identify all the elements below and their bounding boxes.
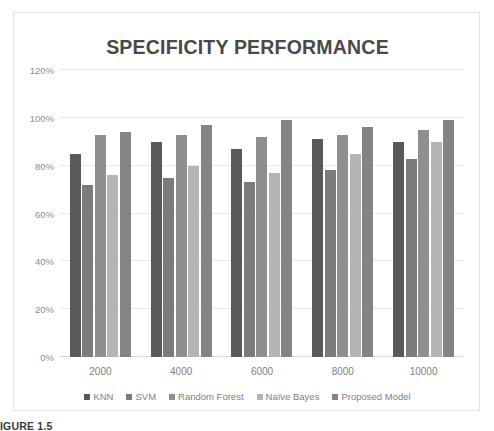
x-axis-tick-label: 2000 [89, 366, 111, 377]
bar[interactable] [120, 132, 131, 357]
bar[interactable] [256, 137, 267, 357]
bar[interactable] [350, 154, 361, 357]
bar-group [383, 70, 464, 357]
bar-group [60, 70, 141, 357]
bar[interactable] [443, 120, 454, 357]
bar[interactable] [406, 159, 417, 358]
legend-item[interactable]: Naïve Bayes [257, 391, 320, 402]
bar[interactable] [231, 149, 242, 357]
bar-group [302, 70, 383, 357]
y-axis-tick-label: 20% [35, 304, 54, 315]
legend-swatch-icon [257, 394, 263, 400]
legend-swatch-icon [169, 394, 175, 400]
legend-item[interactable]: SVM [126, 391, 156, 402]
y-axis-tick-label: 60% [35, 208, 54, 219]
bar[interactable] [362, 127, 373, 357]
x-axis-tick-label: 4000 [170, 366, 192, 377]
x-axis-tick-label: 10000 [410, 366, 438, 377]
bars-layer [60, 70, 464, 357]
bar[interactable] [312, 139, 323, 357]
bar-group [141, 70, 222, 357]
bar[interactable] [107, 175, 118, 357]
bar[interactable] [269, 173, 280, 357]
bar[interactable] [201, 125, 212, 357]
legend-swatch-icon [126, 394, 132, 400]
legend-item-label: Proposed Model [341, 391, 410, 402]
bar[interactable] [244, 182, 255, 357]
y-axis-tick-label: 0% [40, 352, 54, 363]
y-axis-tick-label: 80% [35, 160, 54, 171]
chart-frame: SPECIFICITY PERFORMANCE 0%20%40%60%80%10… [13, 12, 480, 411]
chart-legend: KNNSVMRandom ForestNaïve BayesProposed M… [14, 391, 481, 402]
x-axis-tick-label: 8000 [332, 366, 354, 377]
bar-group [222, 70, 303, 357]
legend-item-label: SVM [135, 391, 156, 402]
bar[interactable] [431, 142, 442, 357]
x-axis-tick-label: 6000 [251, 366, 273, 377]
chart-title: SPECIFICITY PERFORMANCE [14, 36, 481, 59]
bar[interactable] [151, 142, 162, 357]
bar[interactable] [337, 135, 348, 357]
legend-swatch-icon [84, 394, 90, 400]
y-axis-tick-label: 40% [35, 256, 54, 267]
legend-item[interactable]: Random Forest [169, 391, 243, 402]
bar[interactable] [176, 135, 187, 357]
y-axis-tick-label: 120% [30, 65, 54, 76]
figure-container: SPECIFICITY PERFORMANCE 0%20%40%60%80%10… [0, 0, 494, 431]
bar[interactable] [418, 130, 429, 357]
bar[interactable] [188, 166, 199, 357]
bar[interactable] [163, 178, 174, 357]
legend-item-label: KNN [93, 391, 113, 402]
legend-swatch-icon [332, 394, 338, 400]
bar[interactable] [82, 185, 93, 357]
legend-item[interactable]: Proposed Model [332, 391, 410, 402]
bar[interactable] [393, 142, 404, 357]
plot-area: 0%20%40%60%80%100%120% 20004000600080001… [60, 70, 464, 357]
legend-item-label: Random Forest [178, 391, 243, 402]
figure-caption: IGURE 1.5 [0, 420, 53, 431]
y-axis-tick-label: 100% [30, 112, 54, 123]
bar[interactable] [281, 120, 292, 357]
legend-item-label: Naïve Bayes [266, 391, 320, 402]
legend-item[interactable]: KNN [84, 391, 113, 402]
bar[interactable] [95, 135, 106, 357]
bar[interactable] [70, 154, 81, 357]
bar[interactable] [325, 170, 336, 357]
